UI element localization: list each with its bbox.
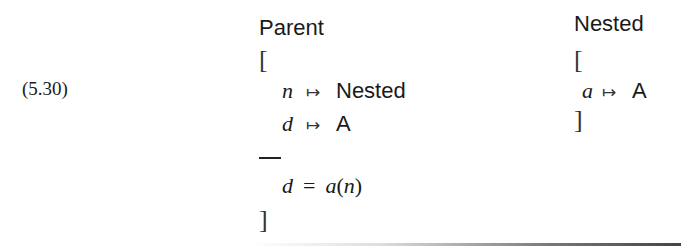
mapsto-arrow-icon: ↦ [306, 114, 336, 136]
mapsto-arrow-icon: ↦ [602, 81, 632, 103]
constraint-separator [259, 157, 281, 159]
parent-field-row: n ↦ Nested [282, 80, 406, 103]
field-type: Nested [336, 80, 406, 102]
equals-sign: = [303, 175, 315, 197]
left-paren: ( [336, 175, 343, 197]
field-type: A [336, 113, 351, 135]
parent-open-bracket: [ [259, 47, 268, 73]
right-paren: ) [355, 175, 362, 197]
field-variable: n [282, 80, 306, 102]
parent-field-row: d ↦ A [282, 113, 351, 136]
equation-number: (5.30) [22, 79, 68, 98]
field-type: A [632, 80, 647, 102]
mapsto-arrow-icon: ↦ [306, 81, 336, 103]
constraint-argument: n [344, 175, 355, 197]
nested-open-bracket: [ [574, 47, 583, 73]
nested-close-bracket: ] [574, 107, 583, 133]
parent-title: Parent [259, 17, 324, 39]
field-variable: d [282, 113, 306, 135]
constraint-function: a [325, 175, 336, 197]
nested-field-row: a ↦ A [582, 80, 647, 103]
parent-close-bracket: ] [259, 207, 268, 233]
constraint-lhs: d [282, 175, 293, 197]
parent-constraint: d = a ( n ) [282, 175, 362, 197]
field-variable: a [582, 80, 602, 102]
nested-title: Nested [574, 13, 644, 35]
